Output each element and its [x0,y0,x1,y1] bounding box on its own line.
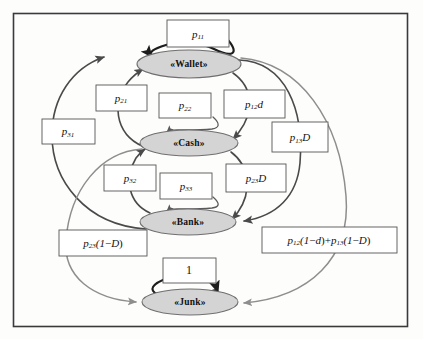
node-junk[interactable]: «Junk» [142,289,238,315]
label-p33: p33 [160,173,212,199]
diagram-canvas: «Wallet» «Cash» «Bank» «Junk» p11 p21 [0,0,423,339]
node-bank[interactable]: «Bank» [140,209,236,235]
node-cash-label: «Cash» [173,138,204,148]
label-p13D: p13D [272,122,328,152]
label-p12-p13-formula-text: p12(1−d)+p13(1−D) [287,233,371,247]
label-one-text: 1 [186,263,192,277]
label-p31: p31 [42,119,95,144]
label-p12-p13-formula: p12(1−d)+p13(1−D) [262,227,397,253]
label-p31-sub: 31 [66,130,74,138]
node-junk-label: «Junk» [174,297,205,307]
node-wallet[interactable]: «Wallet» [137,50,241,78]
label-p12d: p12d [224,90,285,118]
node-bank-label: «Bank» [172,217,204,227]
label-p22-sub: 22 [184,104,192,112]
label-p23D-tail: D [257,171,266,183]
label-one: 1 [163,258,216,283]
label-p11-sub: 11 [198,33,204,41]
label-p33-sub: 33 [184,185,193,193]
label-p22: p22 [159,93,211,118]
label-p11: p11 [167,20,229,47]
node-cash[interactable]: «Cash» [140,130,238,156]
state-transition-diagram: «Wallet» «Cash» «Bank» «Junk» p11 p21 [0,0,423,339]
label-p21: p21 [96,85,147,111]
label-p21-sub: 21 [120,97,127,105]
label-p23-1-minus-D: p23(1−D) [59,230,147,256]
label-p23D: p23D [226,164,286,192]
node-wallet-label: «Wallet» [170,59,208,69]
label-p13D-tail: D [301,131,310,143]
label-p32-sub: 32 [128,177,137,185]
label-p23-1-minus-D-text: p23(1−D) [82,236,123,250]
label-p12d-tail: d [258,97,264,109]
label-p32: p32 [104,165,156,191]
